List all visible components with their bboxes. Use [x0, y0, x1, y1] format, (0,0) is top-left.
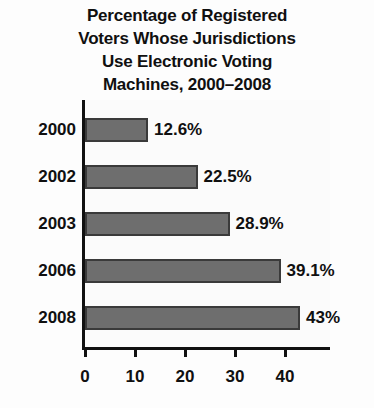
- x-tick-20: [184, 347, 187, 357]
- category-label-2002: 2002: [2, 166, 76, 188]
- chart-title-line-1: Percentage of Registered: [0, 4, 374, 27]
- x-tick-label-10: 10: [115, 366, 155, 388]
- category-label-2008: 2008: [2, 307, 76, 329]
- chart-title-line-2: Voters Whose Jurisdictions: [0, 27, 374, 50]
- x-tick-label-0: 0: [65, 366, 105, 388]
- chart-figure: Percentage of Registered Voters Whose Ju…: [0, 0, 374, 408]
- bar-value-label-2006: 39.1%: [287, 260, 335, 282]
- bar-2008: [85, 306, 300, 330]
- bar-2000: [85, 118, 148, 142]
- x-tick-label-40: 40: [265, 366, 305, 388]
- x-tick-label-30: 30: [215, 366, 255, 388]
- bar-value-label-2000: 12.6%: [154, 119, 202, 141]
- bar-value-label-2002: 22.5%: [204, 166, 252, 188]
- x-tick-label-20: 20: [165, 366, 205, 388]
- bar-value-label-2008: 43%: [306, 307, 340, 329]
- bar-2002: [85, 165, 198, 189]
- category-label-2000: 2000: [2, 119, 76, 141]
- chart-title: Percentage of Registered Voters Whose Ju…: [0, 4, 374, 96]
- x-tick-10: [134, 347, 137, 357]
- category-label-2006: 2006: [2, 260, 76, 282]
- category-label-2003: 2003: [2, 213, 76, 235]
- chart-title-line-4: Machines, 2000–2008: [0, 73, 374, 96]
- x-tick-40: [284, 347, 287, 357]
- bar-2003: [85, 212, 230, 236]
- x-tick-30: [234, 347, 237, 357]
- x-axis-line: [82, 347, 330, 350]
- bar-value-label-2003: 28.9%: [236, 213, 284, 235]
- bar-2006: [85, 259, 281, 283]
- chart-title-line-3: Use Electronic Voting: [0, 50, 374, 73]
- x-tick-0: [84, 347, 87, 357]
